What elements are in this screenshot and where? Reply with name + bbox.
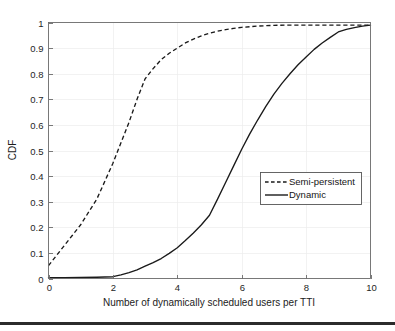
legend[interactable]: Semi-persistent Dynamic	[261, 173, 362, 205]
legend-label-dynamic: Dynamic	[289, 189, 326, 200]
y-ticklabel: 0.7	[30, 94, 43, 105]
y-ticklabel: 0.9	[30, 43, 43, 54]
legend-label-semi-persistent: Semi-persistent	[289, 176, 355, 187]
y-ticklabel: 0.3	[30, 197, 43, 208]
y-ticklabel: 0.4	[30, 171, 43, 182]
x-axis-tickmarks	[50, 275, 372, 279]
y-ticklabel: 0.6	[30, 120, 43, 131]
plot-frame	[49, 23, 371, 279]
y-ticklabel: 0.5	[30, 146, 43, 157]
page-bottom-rule	[0, 322, 395, 325]
series-semi-persistent	[49, 25, 371, 266]
plot-canvas: 00.10.20.30.40.50.60.70.80.91 0246810 CD…	[0, 0, 395, 331]
x-ticklabel: 2	[111, 282, 116, 293]
y-ticklabel: 0.1	[30, 248, 43, 259]
vertical-gridlines	[114, 23, 307, 279]
x-ticklabel: 8	[304, 282, 309, 293]
y-ticklabel: 0.8	[30, 69, 43, 80]
cdf-figure: 00.10.20.30.40.50.60.70.80.91 0246810 CD…	[0, 0, 395, 331]
horizontal-gridlines	[49, 49, 371, 254]
y-ticklabel: 0.2	[30, 222, 43, 233]
y-axis-ticklabels: 00.10.20.30.40.50.60.70.80.91	[30, 18, 43, 285]
x-axis-ticklabels: 0246810	[47, 282, 377, 293]
y-axis-title: CDF	[7, 140, 18, 161]
x-ticklabel: 10	[366, 282, 377, 293]
x-ticklabel: 4	[175, 282, 180, 293]
y-ticklabel: 0	[38, 274, 43, 285]
y-ticklabel: 1	[38, 18, 43, 29]
x-axis-title: Number of dynamically scheduled users pe…	[103, 297, 315, 308]
x-ticklabel: 6	[240, 282, 245, 293]
y-axis-tickmarks	[49, 24, 53, 280]
x-ticklabel: 0	[47, 282, 52, 293]
